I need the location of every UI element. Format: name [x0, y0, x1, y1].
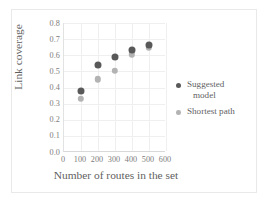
y-axis-title: Link coverage — [12, 5, 24, 109]
legend-label: Shortest path — [187, 106, 254, 117]
chart-figure: 0.00.10.20.30.40.50.60.70.8 010020030040… — [0, 0, 269, 206]
y-tick-label: 0.1 — [36, 131, 60, 140]
legend-item-shortest-path[interactable]: Shortest path — [176, 106, 254, 117]
chart-legend: Suggested model Shortest path — [176, 79, 254, 122]
data-point — [78, 87, 85, 94]
y-tick-label: 0.6 — [36, 51, 60, 60]
data-point — [112, 53, 119, 60]
y-tick-label: 0.3 — [36, 99, 60, 108]
gridline-vertical — [115, 23, 116, 151]
data-point — [95, 61, 102, 68]
legend-label: Suggested — [187, 79, 254, 90]
gridline-vertical — [98, 23, 99, 151]
data-point — [146, 41, 153, 48]
legend-marker-icon — [176, 83, 181, 88]
y-tick-label: 0.8 — [36, 19, 60, 28]
gridline-vertical — [132, 23, 133, 151]
x-axis-title: Number of routes in the set — [36, 169, 196, 181]
legend-label-continued: model — [187, 90, 254, 101]
data-point — [112, 67, 118, 73]
legend-item-suggested-model[interactable]: Suggested model — [176, 79, 254, 101]
y-tick-label: 0.7 — [36, 35, 60, 44]
data-point — [129, 47, 136, 54]
x-tick-label: 600 — [152, 155, 178, 164]
y-tick-label: 0.4 — [36, 83, 60, 92]
data-point — [78, 96, 84, 102]
legend-marker-icon — [176, 110, 181, 115]
y-tick-label: 0.2 — [36, 115, 60, 124]
plot-area — [63, 23, 165, 152]
gridline-vertical — [166, 23, 167, 151]
y-tick-label: 0.5 — [36, 67, 60, 76]
data-point — [95, 76, 101, 82]
x-axis-ticks: 0100200300400500600 — [63, 155, 183, 167]
